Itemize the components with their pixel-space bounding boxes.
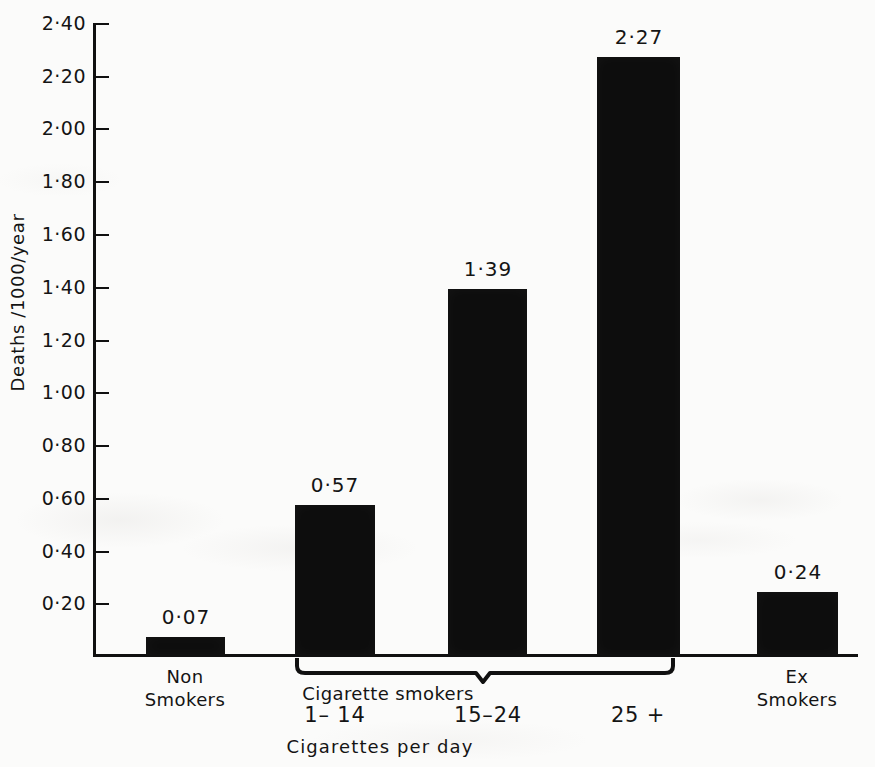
bar-non-smokers xyxy=(146,637,225,655)
x-axis-title: Cigarettes per day xyxy=(280,736,480,757)
sub-label-25plus: 25 + xyxy=(578,703,698,727)
y-tick-label-0-40: 0·40 xyxy=(24,542,86,561)
category-label-ex-smokers: Ex Smokers xyxy=(737,665,857,711)
category-label-non-smokers: Non Smokers xyxy=(125,665,245,711)
y-tick-label-2-00: 2·00 xyxy=(24,119,86,138)
y-tick-label-1-00: 1·00 xyxy=(24,383,86,402)
bar-ex-smokers xyxy=(757,592,838,655)
sub-label-15-24: 15–24 xyxy=(428,703,548,727)
y-tick-1-60 xyxy=(96,234,109,236)
y-tick-label-1-20: 1·20 xyxy=(24,331,86,350)
bar-value-ex-smokers: 0·24 xyxy=(748,560,848,584)
y-tick-label-0-20: 0·20 xyxy=(24,594,86,613)
y-tick-label-2-20: 2·20 xyxy=(24,67,86,86)
bar-chart: Deaths /1000/year 2·40 2·20 2·00 1·80 1·… xyxy=(0,0,875,767)
y-tick-1-40 xyxy=(96,287,109,289)
y-tick-2-40 xyxy=(96,23,109,25)
y-tick-0-20 xyxy=(96,603,109,605)
y-tick-1-80 xyxy=(96,181,109,183)
y-tick-label-1-80: 1·80 xyxy=(24,172,86,191)
y-tick-label-2-40: 2·40 xyxy=(24,14,86,33)
group-label-cigarette-smokers: Cigarette smokers xyxy=(288,683,488,704)
y-tick-label-1-40: 1·40 xyxy=(24,278,86,297)
y-tick-0-80 xyxy=(96,445,109,447)
bar-smokers-15-24 xyxy=(448,289,527,655)
bar-value-smokers-15-24: 1·39 xyxy=(438,257,538,281)
y-tick-label-0-80: 0·80 xyxy=(24,436,86,455)
y-tick-0-40 xyxy=(96,551,109,553)
bar-smokers-1-14 xyxy=(295,505,375,655)
y-tick-label-1-60: 1·60 xyxy=(24,225,86,244)
bar-value-smokers-1-14: 0·57 xyxy=(285,473,385,497)
y-tick-2-20 xyxy=(96,76,109,78)
sub-label-1-14: 1– 14 xyxy=(275,703,395,727)
bar-value-smokers-25plus: 2·27 xyxy=(589,25,689,49)
y-tick-1-20 xyxy=(96,340,109,342)
y-tick-2-00 xyxy=(96,128,109,130)
y-tick-0-60 xyxy=(96,498,109,500)
bar-smokers-25plus xyxy=(597,57,680,655)
bar-value-non-smokers: 0·07 xyxy=(136,605,236,629)
y-tick-1-00 xyxy=(96,392,109,394)
y-tick-label-0-60: 0·60 xyxy=(24,489,86,508)
